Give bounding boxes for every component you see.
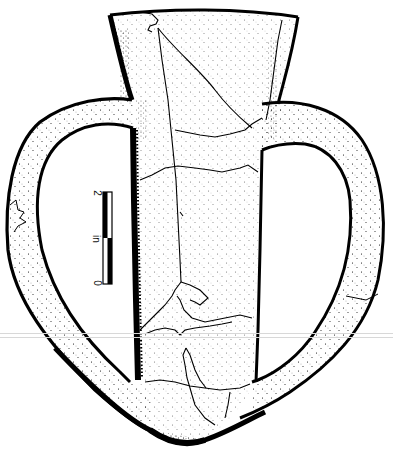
scale-label-top: 2 [92, 190, 102, 196]
scale-label-units: in [91, 235, 101, 243]
scan-artifact-line [0, 333, 393, 334]
scale-bar [103, 192, 112, 284]
right-handle [240, 102, 383, 418]
scan-artifact-line [0, 337, 393, 338]
vessel-drawing [0, 0, 393, 450]
scale-label-bottom: 0 [92, 280, 102, 286]
left-handle [7, 99, 152, 432]
